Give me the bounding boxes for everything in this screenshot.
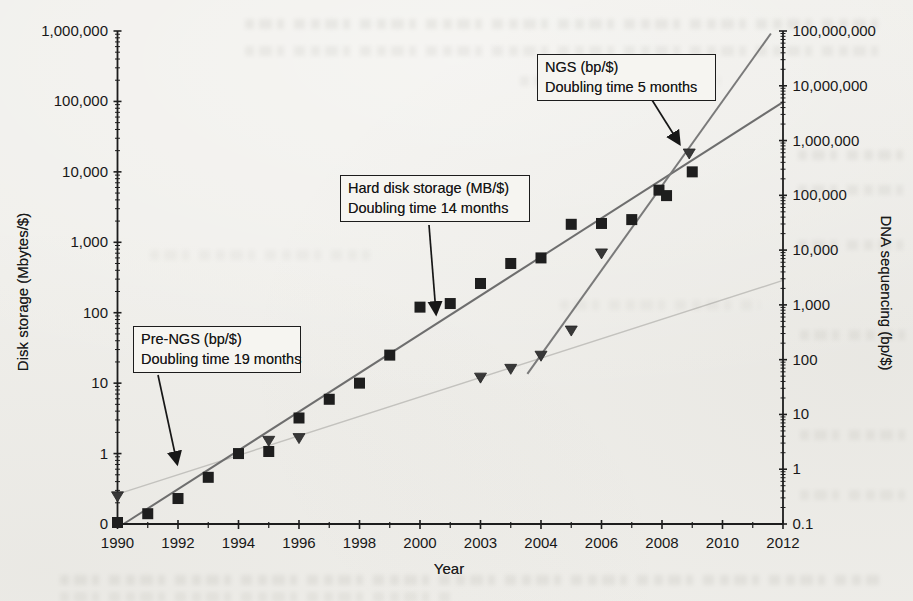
- annotation-hard-disk-line1: Hard disk storage (MB/$): [348, 178, 522, 198]
- data-point-square: [415, 302, 426, 313]
- trend-line-hard-disk-trend: [124, 102, 783, 524]
- x-tick-label: 1998: [343, 534, 376, 551]
- annotation-ngs-line1: NGS (bp/$): [545, 57, 708, 77]
- data-point-square: [142, 508, 153, 519]
- x-tick-label: 2010: [706, 534, 739, 551]
- data-point-square: [354, 378, 365, 389]
- data-point-triangle: [293, 434, 305, 444]
- x-tick-label: 2012: [766, 534, 799, 551]
- data-point-square: [263, 446, 274, 457]
- data-point-square: [233, 448, 244, 459]
- annotation-pre-ngs-line1: Pre-NGS (bp/$): [141, 329, 293, 349]
- right-tick-label: 100: [793, 351, 818, 368]
- data-point-triangle: [565, 326, 577, 336]
- x-tick-label: 1990: [101, 534, 134, 551]
- annotation-hard-disk: Hard disk storage (MB/$) Doubling time 1…: [340, 175, 530, 222]
- right-tick-label: 100,000: [793, 186, 847, 203]
- trend-line-pre-ngs-trend: [118, 280, 784, 494]
- annotation-pre-ngs-line2: Doubling time 19 months: [141, 349, 293, 369]
- annotation-pre-ngs: Pre-NGS (bp/$) Doubling time 19 months: [133, 326, 301, 373]
- annotation-ngs: NGS (bp/$) Doubling time 5 months: [537, 54, 716, 101]
- data-point-square: [566, 219, 577, 230]
- right-tick-label: 1,000,000: [793, 132, 860, 149]
- x-tick-label: 2003: [464, 534, 497, 551]
- right-tick-label: 100,000,000: [793, 22, 876, 39]
- x-tick-label: 1996: [282, 534, 315, 551]
- left-axis-title: Disk storage (Mbytes/$): [14, 213, 31, 371]
- data-point-square: [384, 350, 395, 361]
- scanned-figure-page: 1990199219941996199820002003200420062008…: [0, 0, 913, 601]
- data-point-square: [626, 214, 637, 225]
- right-tick-label: 0.1: [793, 515, 814, 532]
- x-tick-label: 1992: [161, 534, 194, 551]
- data-point-triangle: [112, 492, 124, 502]
- right-tick-label: 10,000: [793, 241, 839, 258]
- pre-ngs-arrow: [158, 375, 177, 463]
- left-tick-label: 0: [100, 515, 108, 532]
- ngs-arrow: [652, 100, 679, 143]
- data-point-square: [112, 517, 123, 528]
- left-tick-label: 10,000: [62, 163, 108, 180]
- x-tick-label: 2008: [645, 534, 678, 551]
- data-point-square: [661, 190, 672, 201]
- x-tick-label: 2000: [403, 534, 436, 551]
- chart-canvas: 1990199219941996199820002003200420062008…: [0, 0, 913, 601]
- left-tick-label: 10: [91, 374, 108, 391]
- data-point-square: [294, 412, 305, 423]
- data-point-square: [173, 493, 184, 504]
- left-tick-label: 1,000: [70, 233, 108, 250]
- data-point-triangle: [596, 249, 608, 259]
- right-axis-title: DNA sequencing (bp/$): [878, 215, 895, 370]
- data-point-square: [324, 394, 335, 405]
- data-point-square: [596, 218, 607, 229]
- right-tick-label: 1,000: [793, 296, 831, 313]
- data-point-square: [203, 472, 214, 483]
- x-tick-label: 2004: [524, 534, 557, 551]
- left-tick-label: 1,000,000: [41, 22, 108, 39]
- data-point-triangle: [475, 373, 487, 383]
- data-point-square: [505, 258, 516, 269]
- left-tick-label: 100,000: [54, 92, 108, 109]
- x-tick-label: 2006: [585, 534, 618, 551]
- annotation-ngs-line2: Doubling time 5 months: [545, 77, 708, 97]
- x-tick-label: 1994: [222, 534, 255, 551]
- left-tick-label: 100: [83, 304, 108, 321]
- data-point-square: [445, 298, 456, 309]
- x-axis-title: Year: [434, 560, 464, 577]
- right-tick-label: 10: [793, 405, 810, 422]
- data-point-square: [536, 252, 547, 263]
- data-point-square: [687, 166, 698, 177]
- right-tick-label: 10,000,000: [793, 77, 868, 94]
- right-tick-label: 1: [793, 460, 801, 477]
- annotation-hard-disk-line2: Doubling time 14 months: [348, 198, 522, 218]
- left-tick-label: 1: [100, 445, 108, 462]
- hdd-arrow: [429, 225, 436, 313]
- data-point-square: [475, 278, 486, 289]
